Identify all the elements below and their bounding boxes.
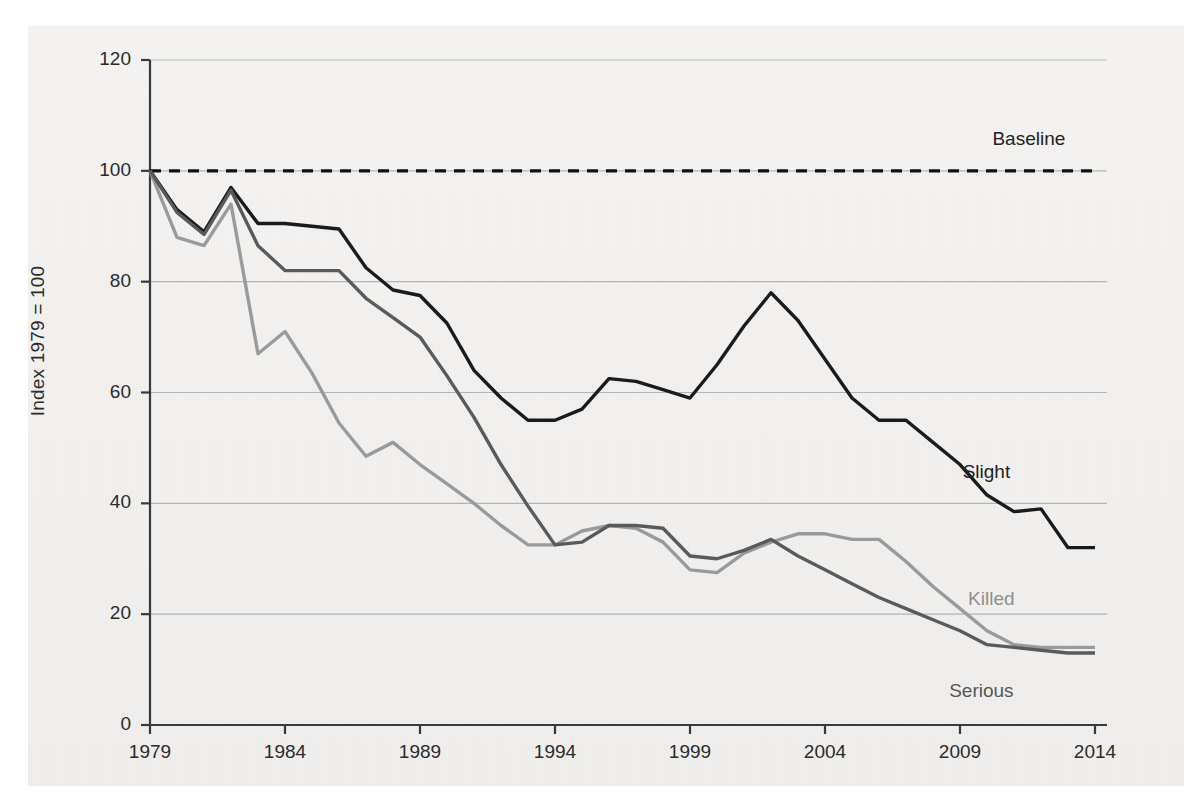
series-line-killed bbox=[150, 171, 1095, 648]
x-tick-label: 1999 bbox=[650, 741, 730, 763]
y-axis-title: Index 1979 = 100 bbox=[27, 241, 49, 441]
series-line-serious bbox=[150, 171, 1095, 653]
y-tick-label: 60 bbox=[71, 381, 131, 403]
tick-marks-group bbox=[141, 60, 1095, 734]
series-group bbox=[150, 171, 1095, 653]
x-tick-label: 1989 bbox=[380, 741, 460, 763]
x-tick-label: 2009 bbox=[920, 741, 1000, 763]
y-tick-label: 100 bbox=[71, 159, 131, 181]
x-tick-label: 1984 bbox=[245, 741, 325, 763]
y-tick-label: 80 bbox=[71, 270, 131, 292]
y-tick-label: 120 bbox=[71, 48, 131, 70]
y-tick-label: 40 bbox=[71, 491, 131, 513]
chart-figure: Index 1979 = 100 020406080100120 1979198… bbox=[0, 0, 1184, 810]
series-label-slight: Slight bbox=[963, 461, 1011, 483]
series-label-killed: Killed bbox=[968, 588, 1014, 610]
y-tick-label: 0 bbox=[71, 713, 131, 735]
y-tick-label: 20 bbox=[71, 602, 131, 624]
series-label-serious: Serious bbox=[949, 680, 1013, 702]
series-line-slight bbox=[150, 171, 1095, 548]
x-tick-label: 2004 bbox=[785, 741, 865, 763]
series-label-baseline: Baseline bbox=[992, 128, 1065, 150]
x-tick-label: 1979 bbox=[110, 741, 190, 763]
gridlines-group bbox=[150, 60, 1107, 614]
x-tick-label: 2014 bbox=[1055, 741, 1135, 763]
x-tick-label: 1994 bbox=[515, 741, 595, 763]
